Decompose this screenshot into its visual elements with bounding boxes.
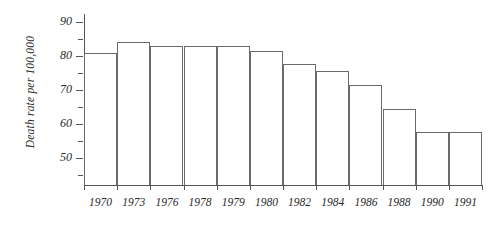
x-tick-label: 1986 xyxy=(349,196,382,208)
x-tick xyxy=(482,186,483,190)
bar xyxy=(383,109,416,185)
bar xyxy=(184,46,217,185)
x-tick-label: 1979 xyxy=(217,196,250,208)
x-tick xyxy=(84,186,85,190)
x-tick-label: 1978 xyxy=(184,196,217,208)
x-tick xyxy=(416,186,417,190)
x-tick-label: 1980 xyxy=(250,196,283,208)
x-tick xyxy=(283,186,284,190)
bar xyxy=(283,64,316,185)
x-tick xyxy=(217,186,218,190)
bar xyxy=(84,53,117,185)
x-tick xyxy=(184,186,185,190)
x-tick xyxy=(449,186,450,190)
x-tick xyxy=(150,186,151,190)
bar xyxy=(316,71,349,185)
x-tick-label: 1988 xyxy=(383,196,416,208)
x-tick xyxy=(250,186,251,190)
x-tick xyxy=(316,186,317,190)
x-axis-tick-labels: 1970197319761978197919801982198419861988… xyxy=(0,196,497,216)
x-tick xyxy=(117,186,118,190)
x-tick-label: 1970 xyxy=(84,196,117,208)
bar xyxy=(449,132,482,185)
bar xyxy=(117,42,150,185)
bar xyxy=(416,132,449,185)
bar xyxy=(349,85,382,185)
x-tick-label: 1982 xyxy=(283,196,316,208)
bar-series xyxy=(0,0,497,227)
x-tick xyxy=(383,186,384,190)
x-tick xyxy=(349,186,350,190)
bar xyxy=(150,46,183,185)
bar xyxy=(250,51,283,185)
x-tick-label: 1991 xyxy=(449,196,482,208)
x-tick-label: 1990 xyxy=(416,196,449,208)
bar xyxy=(217,46,250,185)
bar-chart: Death rate per 100,000 5060708090 197019… xyxy=(0,0,497,227)
x-tick-label: 1973 xyxy=(117,196,150,208)
x-tick-label: 1984 xyxy=(316,196,349,208)
x-tick-label: 1976 xyxy=(150,196,183,208)
